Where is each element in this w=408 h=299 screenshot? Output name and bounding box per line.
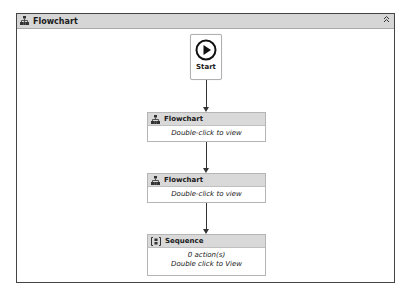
activity-title: Sequence [165,237,203,245]
activity-title: Flowchart [164,115,203,123]
activity-hint: Double click to View [148,260,265,269]
start-node[interactable]: Start [190,34,222,80]
flowchart-icon [20,16,29,27]
designer-title: Flowchart [33,17,78,26]
designer-header[interactable]: Flowchart [17,14,394,29]
activity-count: 0 action(s) [148,251,265,260]
flowchart-icon [151,115,160,124]
activity-header: Sequence [148,235,265,248]
connector-line [206,203,207,229]
activity-flowchart-2[interactable]: Flowchart Double-click to view [147,173,266,203]
double-chevron-up-icon[interactable] [383,15,390,25]
activity-title: Flowchart [164,176,203,184]
play-circle-icon [195,39,217,61]
activity-body: 0 action(s) Double click to View [148,248,265,269]
activity-body: Double-click to view [148,187,265,199]
activity-sequence[interactable]: Sequence 0 action(s) Double click to Vie… [147,234,266,276]
connector-line [206,142,207,168]
sequence-icon [151,237,161,246]
activity-hint: Double-click to view [148,129,265,138]
flowchart-designer[interactable]: Flowchart Start Flowchart Double-click t… [16,13,395,283]
flowchart-icon [151,176,160,185]
activity-header: Flowchart [148,174,265,187]
activity-hint: Double-click to view [148,190,265,199]
activity-header: Flowchart [148,113,265,126]
activity-flowchart-1[interactable]: Flowchart Double-click to view [147,112,266,142]
start-label: Start [196,63,216,71]
activity-body: Double-click to view [148,126,265,138]
connector-line [206,80,207,107]
